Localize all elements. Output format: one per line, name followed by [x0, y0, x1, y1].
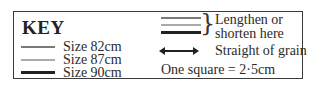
lengthen-shorten-label: Lengthen or shorten here — [215, 13, 305, 41]
brace-icon: } — [200, 12, 215, 34]
pattern-key-box: KEY Size 82cm Size 87cm Size 90cm } Leng… — [13, 11, 303, 79]
double-arrow-icon — [161, 50, 197, 52]
size-82-line-swatch — [21, 46, 55, 48]
size-90-row: Size 90cm — [21, 65, 122, 80]
straight-of-grain-label: Straight of grain — [215, 44, 307, 58]
size-87-line-swatch — [21, 59, 55, 61]
size-90-label: Size 90cm — [63, 66, 122, 80]
scale-label: One square = 2·5cm — [161, 63, 275, 77]
key-title: KEY — [22, 18, 65, 38]
size-90-line-swatch — [21, 71, 55, 74]
